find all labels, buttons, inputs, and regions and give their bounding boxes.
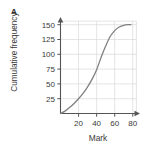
y-tick-label: 75 — [46, 65, 55, 74]
tick-labels: 25507510012515020406080 — [42, 21, 138, 128]
axis-ticks — [57, 25, 132, 117]
x-tick-label: 40 — [92, 119, 101, 128]
y-tick-label: 25 — [46, 95, 55, 104]
y-tick-label: 150 — [42, 21, 56, 30]
y-tick-label: 50 — [46, 80, 55, 89]
y-tick-label: 100 — [42, 50, 56, 59]
chart-figure: A Cumulative frequency Mark 255075100125… — [0, 0, 159, 149]
plot-area: 25507510012515020406080 — [0, 0, 159, 149]
gridlines — [61, 21, 137, 113]
x-tick-label: 80 — [128, 119, 137, 128]
x-tick-label: 60 — [110, 119, 119, 128]
axis-lines — [58, 17, 140, 116]
x-tick-label: 20 — [74, 119, 83, 128]
y-tick-label: 125 — [42, 35, 56, 44]
